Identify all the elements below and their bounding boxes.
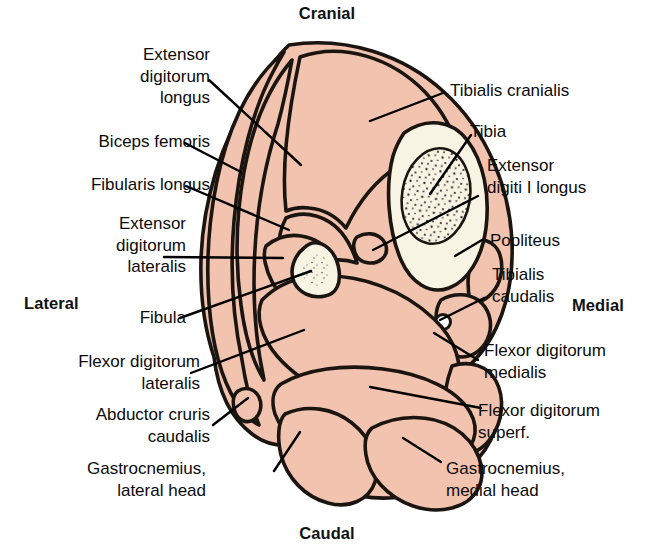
extensor-digiti-i-longus-muscle xyxy=(354,234,387,263)
label-fibula: Fibula xyxy=(20,307,186,329)
label-tibia: Tibia xyxy=(470,121,650,143)
label-flexor-digitorum-medialis: Flexor digitorum medialis xyxy=(484,340,654,383)
label-gastrocnemius-medial-head: Gastrocnemius, medial head xyxy=(446,458,646,501)
label-tibialis-caudalis: Tibialis caudalis xyxy=(492,264,652,307)
label-extensor-digiti-i-longus: Extensor digiti I longus xyxy=(487,155,654,198)
label-fibularis-longus: Fibularis longus xyxy=(20,174,210,196)
tibia-bone xyxy=(389,123,488,290)
label-extensor-digitorum-lateralis: Extensor digitorum lateralis xyxy=(18,213,186,278)
fibula-marrow xyxy=(302,254,330,286)
label-abductor-cruris-caudalis: Abductor cruris caudalis xyxy=(20,404,210,447)
cross-section-body xyxy=(201,43,512,510)
label-tibialis-cranialis: Tibialis cranialis xyxy=(450,80,650,102)
label-popliteus: Popliteus xyxy=(490,230,650,252)
label-gastrocnemius-lateral-head: Gastrocnemius, lateral head xyxy=(16,458,206,501)
label-flexor-digitorum-lateralis: Flexor digitorum lateralis xyxy=(10,351,200,394)
label-biceps-femoris: Biceps femoris xyxy=(20,131,210,153)
fibula-bone xyxy=(292,243,339,297)
label-extensor-digitorum-longus: Extensor digitorum longus xyxy=(40,44,210,109)
direction-label-cranial: Cranial xyxy=(0,4,654,23)
label-flexor-digitorum-superf: Flexor digitorum superf. xyxy=(478,400,654,443)
direction-label-caudal: Caudal xyxy=(0,524,654,543)
